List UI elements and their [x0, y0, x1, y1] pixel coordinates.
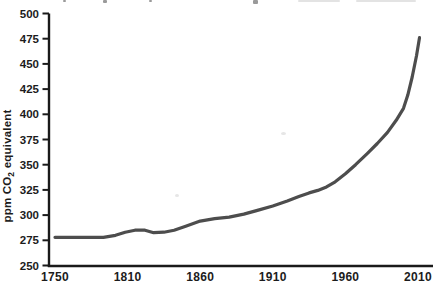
caption-fragment: [103, 0, 107, 3]
y-tick-label: 400: [20, 108, 39, 120]
x-tick-label: 1910: [259, 270, 287, 284]
scan-speck: [175, 194, 179, 197]
y-tick-label: 300: [20, 209, 39, 221]
ghg-concentration-line: [55, 38, 420, 238]
y-tick-label: 500: [20, 8, 39, 20]
y-tick-label: 375: [20, 134, 40, 146]
co2-line-chart: 2502753003253503754004254504755001750181…: [0, 0, 435, 292]
caption-fragment: [63, 0, 66, 2]
x-tick-label: 1860: [186, 270, 214, 284]
y-tick-label: 450: [20, 58, 39, 70]
y-tick-label: 475: [20, 33, 40, 45]
caption-fragment: [298, 0, 340, 2]
y-tick-label: 350: [20, 159, 39, 171]
y-axis-title: ppm CO2 equivalent: [1, 109, 16, 222]
y-tick-label: 325: [20, 184, 40, 196]
y-tick-label: 275: [20, 234, 40, 246]
co2-concentration-figure: 2502753003253503754004254504755001750181…: [0, 0, 435, 292]
scan-speck: [281, 132, 286, 135]
y-tick-label: 425: [20, 83, 40, 95]
x-tick-label: 2010: [404, 270, 432, 284]
x-tick-label: 1810: [114, 270, 142, 284]
caption-fragment: [356, 0, 416, 2]
y-tick-label: 250: [20, 260, 39, 272]
x-tick-label: 1750: [41, 270, 69, 284]
x-tick-label: 1960: [331, 270, 359, 284]
caption-fragment: [149, 0, 152, 2]
caption-fragment: [253, 0, 258, 4]
